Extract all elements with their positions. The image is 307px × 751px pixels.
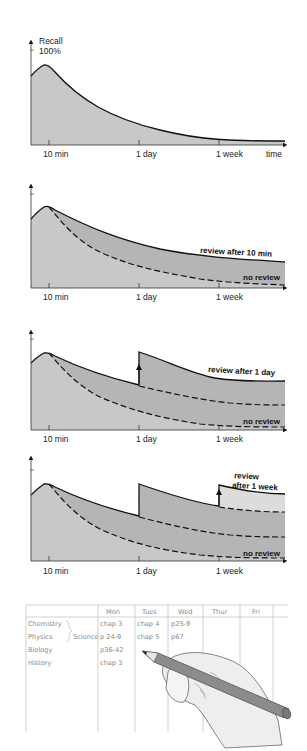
x-tick-label-1week: 1 week bbox=[216, 292, 244, 302]
x-tick-label-1week: 1 week bbox=[216, 566, 244, 576]
x-tick-label-1week: 1 week bbox=[216, 149, 244, 159]
cell-physics-mon: p 24-9 bbox=[100, 633, 121, 641]
cell-biology-mon: p36-42 bbox=[100, 646, 123, 654]
science-brace bbox=[66, 621, 72, 642]
row-subject-chemistry: Chemistry bbox=[28, 620, 62, 628]
cell-history-mon: chap 3 bbox=[100, 659, 122, 667]
y-tick-label: 100% bbox=[39, 46, 61, 56]
hand-with-pencil-illustration bbox=[142, 651, 292, 748]
recall-area bbox=[31, 65, 285, 145]
x-tick-label-1day: 1 day bbox=[136, 434, 158, 444]
cell-physics-tues: chap 5 bbox=[137, 633, 159, 641]
figure-canvas: Recall 100% 10 min 1 day 1 week time 10 … bbox=[0, 0, 307, 751]
cell-chemistry-tues: chap 4 bbox=[137, 620, 159, 628]
header-fri: Fri bbox=[252, 608, 260, 616]
chart-review-1day: 10 min 1 day 1 week review after 1 day n… bbox=[30, 332, 285, 444]
header-thur: Thur bbox=[211, 608, 227, 616]
chart-review-1week: 10 min 1 day 1 week review after 1 week … bbox=[30, 458, 285, 576]
x-tick-label-1day: 1 day bbox=[136, 149, 158, 159]
annotation-no-review: no review bbox=[243, 273, 281, 282]
x-tick-label-10min: 10 min bbox=[43, 434, 69, 444]
annotation-no-review: no review bbox=[243, 549, 281, 558]
x-tick-label-1week: 1 week bbox=[216, 434, 244, 444]
group-label-science: Science bbox=[73, 633, 99, 641]
chart-review-10min: 10 min 1 day 1 week review after 10 min … bbox=[30, 186, 285, 302]
x-axis-label: time bbox=[266, 149, 282, 159]
x-tick-label-1day: 1 day bbox=[136, 292, 158, 302]
annotation-review-line1: review bbox=[234, 471, 260, 481]
x-tick-label-10min: 10 min bbox=[43, 149, 69, 159]
row-subject-history: History bbox=[28, 659, 52, 667]
header-tues: Tues bbox=[141, 608, 157, 616]
header-mon: Mon bbox=[106, 608, 120, 616]
annotation-review: review after 1 day bbox=[208, 365, 276, 378]
annotation-no-review: no review bbox=[243, 417, 281, 426]
row-subject-biology: Biology bbox=[28, 646, 52, 654]
cell-physics-wed: p67 bbox=[171, 633, 184, 641]
header-wed: Wed bbox=[178, 608, 192, 616]
chart-forgetting-curve: Recall 100% 10 min 1 day 1 week time bbox=[30, 36, 285, 159]
cell-chemistry-mon: chap 3 bbox=[100, 620, 122, 628]
y-axis-label: Recall bbox=[39, 36, 63, 46]
row-subject-physics: Physics bbox=[28, 633, 53, 641]
x-tick-label-10min: 10 min bbox=[43, 292, 69, 302]
cell-chemistry-wed: p25-9 bbox=[171, 620, 190, 628]
x-tick-label-10min: 10 min bbox=[43, 566, 69, 576]
x-tick-label-1day: 1 day bbox=[136, 566, 158, 576]
